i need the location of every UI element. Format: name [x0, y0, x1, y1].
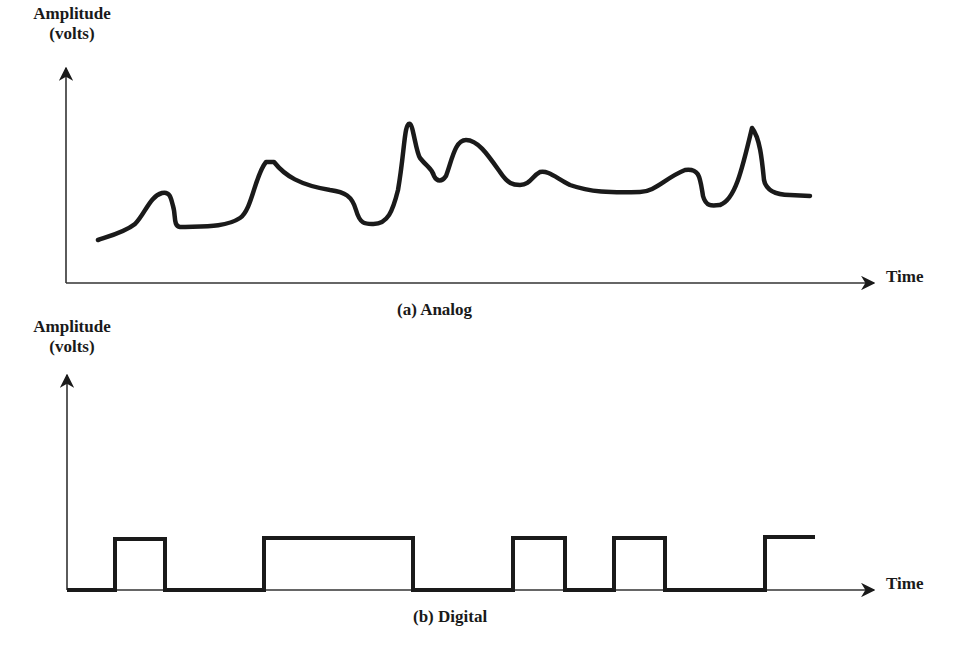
digital-axes: [67, 375, 874, 590]
digital-waveform: [67, 537, 815, 590]
signal-diagram: [0, 0, 959, 649]
analog-axes: [66, 68, 874, 283]
analog-waveform: [98, 124, 810, 240]
